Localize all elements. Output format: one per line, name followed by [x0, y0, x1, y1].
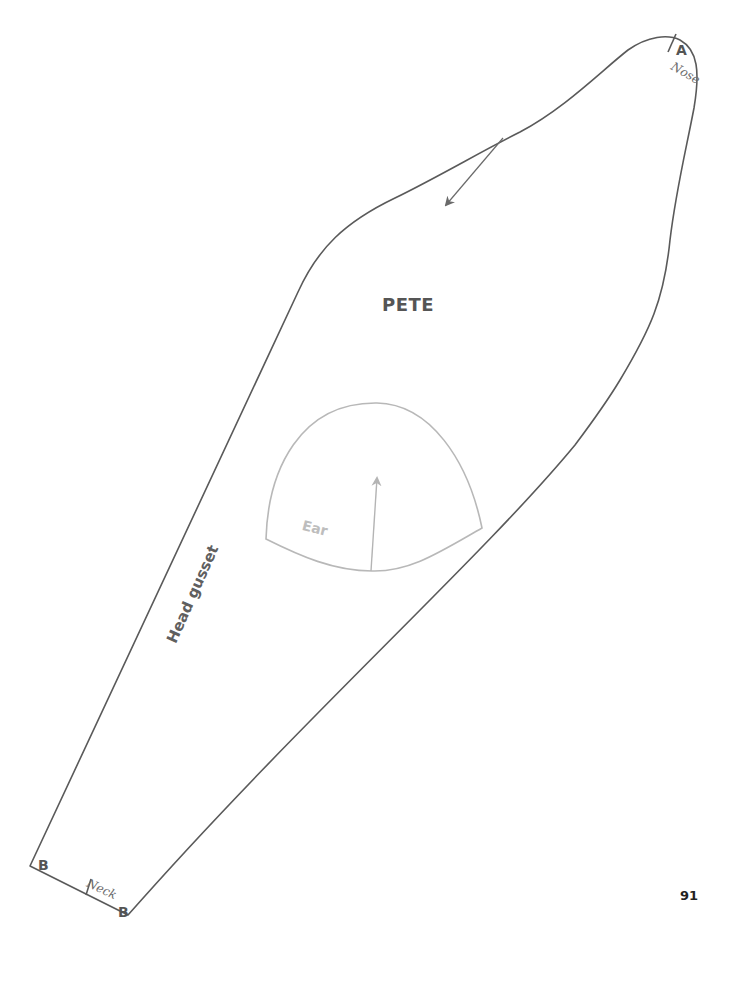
- ear-outline: [266, 403, 482, 571]
- mark-b-right: B: [118, 904, 129, 920]
- pattern-page: PETE Head gusset Ear A Nose B B Neck 91: [0, 0, 742, 981]
- page-number: 91: [680, 888, 698, 903]
- mark-b-left: B: [38, 857, 49, 873]
- piece-title: PETE: [382, 294, 434, 315]
- head-gusset-outline: [30, 37, 697, 915]
- grain-arrow-gusset: [446, 138, 503, 205]
- pattern-drawing: [0, 0, 742, 981]
- grain-arrow-ear: [371, 478, 377, 571]
- mark-a: A: [676, 42, 687, 58]
